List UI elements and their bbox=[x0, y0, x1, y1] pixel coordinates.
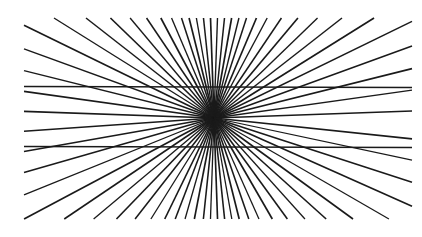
illusion-figure: A dense radial starburst of straight bla… bbox=[0, 0, 422, 237]
upper-horizontal-line bbox=[24, 87, 412, 88]
lower-horizontal-line bbox=[24, 147, 412, 148]
illusion-canvas bbox=[0, 0, 422, 237]
